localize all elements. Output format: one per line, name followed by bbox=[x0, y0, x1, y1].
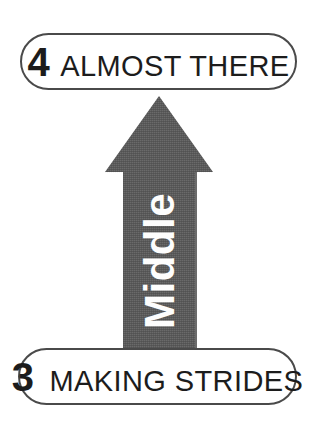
stage-pill-bottom-content: 3 MAKING STRIDES bbox=[12, 357, 304, 397]
stage-label-bottom: MAKING STRIDES bbox=[50, 367, 304, 396]
stage-number-top: 4 bbox=[27, 42, 49, 82]
stage-number-bottom: 3 bbox=[12, 357, 34, 397]
stage-label-top: ALMOST THERE bbox=[60, 52, 289, 81]
infographic-canvas: Middle 4 ALMOST THERE 3 MAKING STRIDES bbox=[0, 0, 315, 422]
stage-pill-top[interactable]: 4 ALMOST THERE bbox=[20, 33, 297, 90]
stage-pill-bottom[interactable]: 3 MAKING STRIDES bbox=[18, 348, 297, 405]
stage-pill-top-content: 4 ALMOST THERE bbox=[27, 42, 289, 82]
